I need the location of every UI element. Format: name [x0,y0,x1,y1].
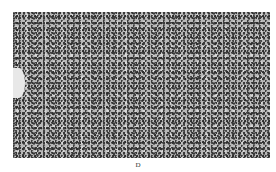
vessel-lumen [13,68,25,98]
histology-micrograph [13,12,270,158]
figure-caption: D [0,161,276,169]
